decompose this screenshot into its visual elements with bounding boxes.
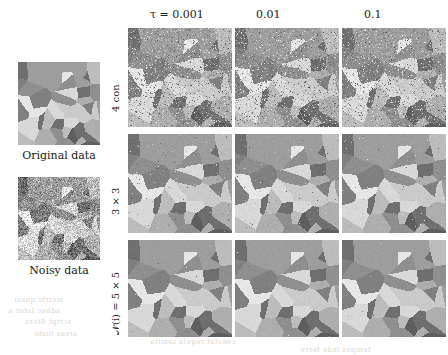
- caption-original-data: Original data: [8, 149, 110, 162]
- caption-noisy-data: Noisy data: [8, 264, 110, 277]
- row-label-4con: 4 con: [110, 84, 121, 112]
- column-header-tau-001: 0.01: [256, 8, 281, 21]
- result-panel-4con-tau01: [342, 28, 446, 127]
- panel-original-data: [18, 62, 100, 145]
- figure-root: metric quasiadhuc lator ascript Sternare…: [0, 0, 448, 355]
- bleed-text-0: metric quasi: [14, 296, 63, 304]
- bleed-text-3: areas iuste: [34, 330, 77, 338]
- bleed-text-4: constat regula semita: [150, 338, 235, 346]
- result-panel-3x3-tau01: [342, 134, 446, 233]
- result-panel-5x5-tau0001: [128, 240, 232, 337]
- row-label-5x5: 𝒩(i) = 5 × 5: [110, 272, 122, 335]
- panel-noisy-data: [18, 177, 100, 260]
- result-panel-3x3-tau0001: [128, 134, 232, 233]
- result-panel-4con-tau0001: [128, 28, 232, 127]
- result-panel-5x5-tau001: [235, 240, 339, 337]
- column-header-tau-0001: τ = 0.001: [150, 8, 204, 21]
- result-panel-3x3-tau001: [235, 134, 339, 233]
- result-panel-4con-tau001: [235, 28, 339, 127]
- bleed-text-5: tempus inde ferre: [300, 346, 370, 354]
- result-panel-5x5-tau01: [342, 240, 446, 337]
- bleed-text-2: script Stern: [24, 318, 71, 326]
- bleed-text-1: adhuc lator a: [8, 307, 60, 315]
- row-label-3x3: 3 × 3: [110, 188, 121, 215]
- column-header-tau-01: 0.1: [364, 8, 382, 21]
